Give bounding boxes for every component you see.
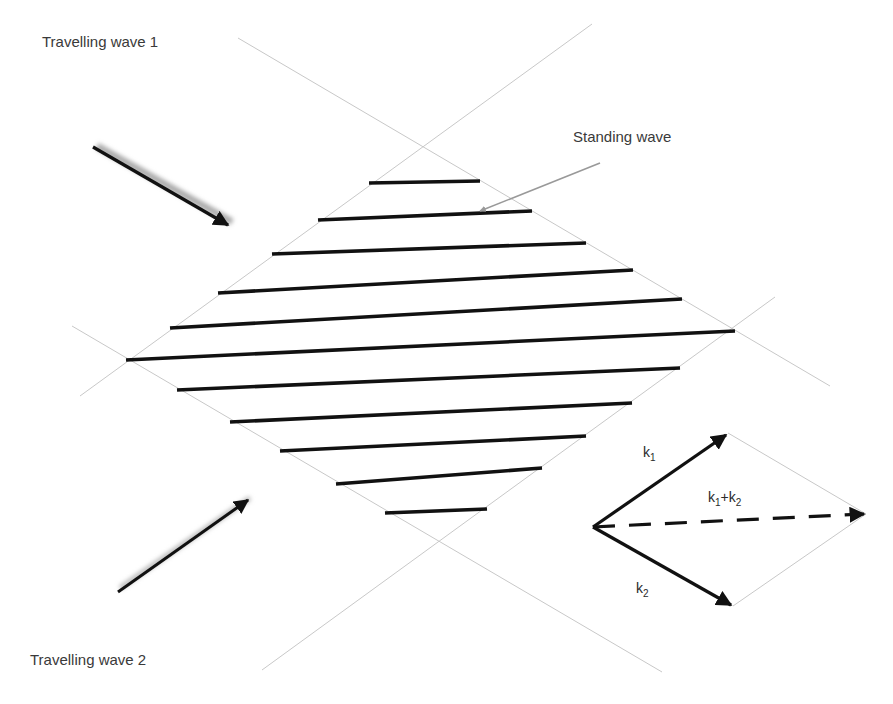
wave1-label: Travelling wave 1 xyxy=(42,33,158,50)
k-sum-plus-k: +k xyxy=(721,489,736,505)
k-sum-label: k1+k2 xyxy=(708,489,741,508)
k-sum-k1: k xyxy=(708,489,715,505)
standing-wave-diagram xyxy=(0,0,893,704)
fringe xyxy=(230,403,632,422)
fringe xyxy=(272,243,586,254)
fringe xyxy=(126,331,735,360)
standing-wave-pointer-icon xyxy=(480,163,600,211)
fringe xyxy=(385,509,487,513)
fringe xyxy=(369,181,480,183)
fringe xyxy=(177,368,680,390)
k-sum-vector-icon xyxy=(593,514,864,527)
k1-label: k1 xyxy=(643,444,656,463)
k2-label: k2 xyxy=(636,580,649,599)
k2-subscript: 2 xyxy=(643,588,649,599)
wave2-arrow-icon xyxy=(118,498,250,592)
k1-symbol: k xyxy=(643,444,650,460)
standing-wave-label: Standing wave xyxy=(573,128,671,145)
fringe xyxy=(218,270,633,293)
k1-vector-icon xyxy=(593,435,726,527)
fringe xyxy=(336,468,542,484)
wave2-label: Travelling wave 2 xyxy=(30,651,146,668)
fringe xyxy=(280,436,586,451)
fringe xyxy=(170,299,682,328)
guide-line-3 xyxy=(72,326,662,672)
parallelogram-edge xyxy=(733,514,866,606)
wave1-arrow-icon xyxy=(93,146,232,225)
k1-subscript: 1 xyxy=(650,452,656,463)
guide-line-1 xyxy=(238,38,830,386)
k2-vector-icon xyxy=(593,527,731,605)
vector-parallelogram xyxy=(593,433,866,606)
parallelogram-edge xyxy=(728,433,866,514)
k-sum-k2-sub: 2 xyxy=(736,497,742,508)
guide-lines xyxy=(72,24,830,672)
standing-wave-fringes xyxy=(126,181,735,513)
fringe xyxy=(318,211,532,220)
k2-symbol: k xyxy=(636,580,643,596)
